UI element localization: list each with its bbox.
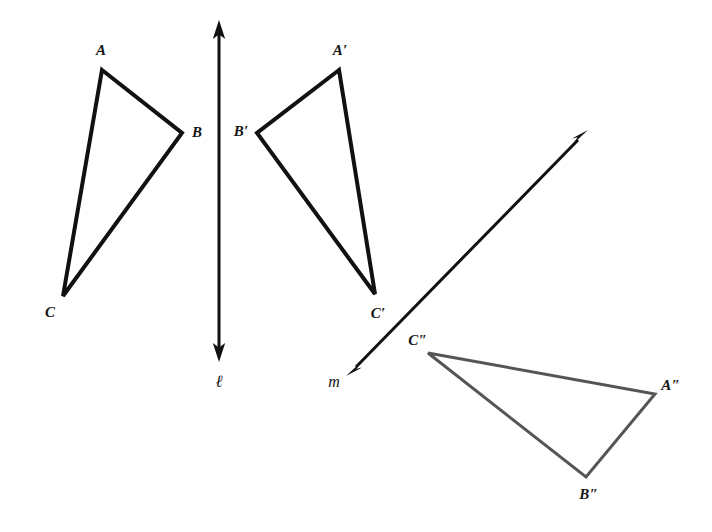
triangle-a-prime-outline xyxy=(257,70,375,294)
line-label-l: ℓ xyxy=(215,373,222,390)
line-l-group xyxy=(213,20,225,362)
line-m-arrow-upper-right xyxy=(572,130,588,144)
vertex-label-a: A xyxy=(96,43,106,58)
vertex-label-a-double-prime: A″ xyxy=(661,378,680,393)
diagram-canvas xyxy=(0,0,712,532)
vertex-label-b-prime: B′ xyxy=(234,124,249,139)
triangle-a-double-prime-b-double-prime-c-double-prime xyxy=(428,353,655,477)
triangle-abc-outline xyxy=(63,70,182,296)
vertex-label-a-prime: A′ xyxy=(333,43,348,58)
vertex-label-b-double-prime: B″ xyxy=(579,487,598,502)
vertex-label-c-double-prime: C″ xyxy=(408,333,427,348)
triangle-a-prime-b-prime-c-prime xyxy=(257,70,375,294)
line-m-shaft xyxy=(356,140,578,367)
triangle-abc xyxy=(63,70,182,296)
vertex-label-c: C xyxy=(45,305,55,320)
line-m-group xyxy=(346,130,588,376)
geometry-diagram: A B C A′ B′ C′ C″ A″ B″ ℓ m xyxy=(0,0,712,532)
line-label-m: m xyxy=(328,374,340,390)
vertex-label-b: B xyxy=(192,125,202,140)
vertex-label-c-prime: C′ xyxy=(371,306,386,321)
triangle-a-double-prime-outline xyxy=(428,353,655,477)
